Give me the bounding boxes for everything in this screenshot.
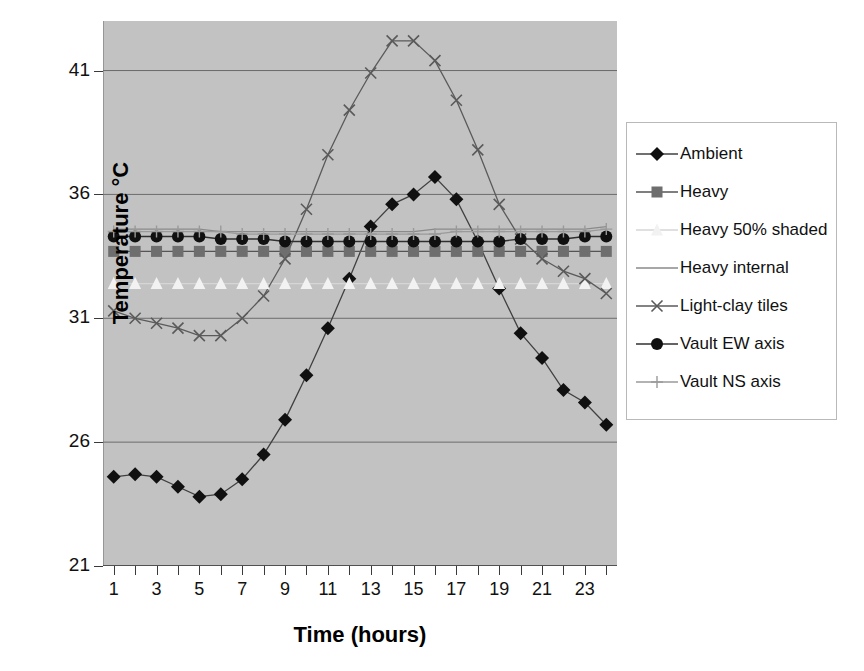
- legend-label: Heavy: [680, 182, 728, 202]
- x-tick-mark: [499, 566, 500, 575]
- x-tick-mark: [114, 566, 115, 575]
- series-markers-0: [107, 170, 614, 504]
- legend-label: Heavy 50% shaded: [680, 220, 827, 240]
- x-tick-mark: [264, 566, 265, 575]
- legend-item-4[interactable]: Light-clay tiles: [627, 287, 836, 325]
- x-tick-mark: [478, 566, 479, 575]
- x-tick-mark: [414, 566, 415, 575]
- plot-area: [103, 21, 617, 566]
- x-tick-label: 19: [484, 579, 514, 600]
- y-tick-mark: [94, 71, 103, 72]
- x-tick-label: 17: [441, 579, 471, 600]
- x-tick-mark: [285, 566, 286, 575]
- x-tick-mark: [563, 566, 564, 575]
- x-tick-mark: [157, 566, 158, 575]
- legend-item-3[interactable]: Heavy internal: [627, 249, 836, 287]
- y-tick-label: 21: [44, 554, 90, 576]
- series-markers-5: [108, 231, 613, 248]
- x-tick-label: 7: [227, 579, 257, 600]
- x-tick-mark: [328, 566, 329, 575]
- legend-item-6[interactable]: Vault NS axis: [627, 363, 836, 401]
- legend-marker-icon: [634, 219, 680, 241]
- legend-marker-icon: [634, 143, 680, 165]
- legend-marker-icon: [634, 181, 680, 203]
- y-tick-label: 26: [44, 430, 90, 452]
- x-tick-mark: [542, 566, 543, 575]
- legend-label: Light-clay tiles: [680, 296, 788, 316]
- series-line-4: [114, 41, 607, 336]
- x-tick-mark: [371, 566, 372, 575]
- series-line-0: [114, 177, 607, 497]
- x-tick-label: 3: [142, 579, 172, 600]
- x-tick-label: 1: [99, 579, 129, 600]
- x-tick-mark: [178, 566, 179, 575]
- x-tick-mark: [199, 566, 200, 575]
- x-tick-mark: [306, 566, 307, 575]
- legend-label: Vault NS axis: [680, 372, 781, 392]
- plot-canvas: [103, 21, 617, 566]
- legend-marker-icon: [634, 371, 680, 393]
- x-tick-label: 9: [270, 579, 300, 600]
- y-tick-mark: [94, 194, 103, 195]
- x-tick-mark: [456, 566, 457, 575]
- x-tick-mark: [349, 566, 350, 575]
- x-tick-mark: [521, 566, 522, 575]
- x-tick-mark: [606, 566, 607, 575]
- x-tick-label: 15: [399, 579, 429, 600]
- chart-figure: 2126313641 1357911131517192123 Temperatu…: [0, 0, 864, 671]
- legend-marker-icon: [634, 295, 680, 317]
- series-line-3: [114, 227, 607, 232]
- y-tick-label: 31: [44, 306, 90, 328]
- x-tick-label: 5: [184, 579, 214, 600]
- series-markers-4: [108, 35, 612, 341]
- x-tick-label: 13: [356, 579, 386, 600]
- y-tick-mark: [94, 566, 103, 567]
- legend-item-2[interactable]: Heavy 50% shaded: [627, 211, 836, 249]
- legend-label: Heavy internal: [680, 258, 789, 278]
- series-line-5: [114, 237, 607, 242]
- x-tick-mark: [221, 566, 222, 575]
- x-tick-mark: [242, 566, 243, 575]
- legend-item-1[interactable]: Heavy: [627, 173, 836, 211]
- y-tick-mark: [94, 442, 103, 443]
- x-tick-label: 23: [570, 579, 600, 600]
- x-tick-mark: [435, 566, 436, 575]
- x-tick-mark: [135, 566, 136, 575]
- legend-marker-icon: [634, 333, 680, 355]
- x-tick-label: 21: [527, 579, 557, 600]
- legend-item-5[interactable]: Vault EW axis: [627, 325, 836, 363]
- y-tick-label: 41: [44, 59, 90, 81]
- y-tick-mark: [94, 318, 103, 319]
- x-tick-label: 11: [313, 579, 343, 600]
- legend-marker-icon: [634, 257, 680, 279]
- legend-item-0[interactable]: Ambient: [627, 135, 836, 173]
- y-axis-title: Temperature °C: [108, 113, 134, 373]
- legend-label: Vault EW axis: [680, 334, 785, 354]
- legend-label: Ambient: [680, 144, 742, 164]
- y-tick-label: 36: [44, 182, 90, 204]
- x-tick-mark: [392, 566, 393, 575]
- x-axis-title: Time (hours): [103, 622, 617, 648]
- chart-legend: AmbientHeavyHeavy 50% shadedHeavy intern…: [626, 122, 837, 420]
- x-tick-mark: [585, 566, 586, 575]
